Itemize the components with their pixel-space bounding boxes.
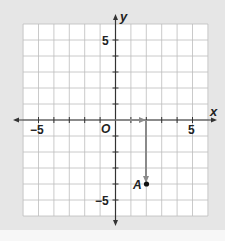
- x-axis-left-arrowhead: [13, 118, 19, 123]
- origin-label: O: [101, 122, 111, 136]
- x-axis-label: x: [209, 104, 218, 119]
- y-axis-bottom-arrowhead: [113, 220, 118, 226]
- point-a-label: A: [132, 178, 142, 192]
- y-axis-top-arrowhead: [113, 14, 118, 20]
- y-axis-label: y: [119, 9, 128, 24]
- point-a: [144, 181, 149, 186]
- coordinate-plane: y x O −5 5 5 −5 A: [0, 0, 225, 241]
- y-tick-label-5: 5: [102, 34, 109, 48]
- x-tick-label-neg5: −5: [30, 123, 44, 137]
- x-tick-label-5: 5: [188, 123, 195, 137]
- y-tick-label-neg5: −5: [95, 194, 109, 208]
